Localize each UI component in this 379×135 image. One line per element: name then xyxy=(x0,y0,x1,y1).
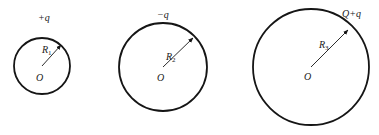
center-label-1: O xyxy=(36,72,43,83)
center-label-2: O xyxy=(157,72,164,83)
radius-arrow-3 xyxy=(311,30,348,67)
shells-diagram: +q R1 O −q R2 O Q+q R3 O xyxy=(0,0,379,135)
shell-1: +q R1 O xyxy=(14,12,70,94)
shell-3: Q+q R3 O xyxy=(253,8,369,125)
radius-label-2: R2 xyxy=(165,51,176,64)
radius-label-1: R1 xyxy=(41,44,52,57)
radius-label-3: R3 xyxy=(318,39,329,52)
charge-label-3: Q+q xyxy=(342,8,361,19)
charge-label-2: −q xyxy=(157,9,169,20)
center-label-3: O xyxy=(304,71,311,82)
charge-label-1: +q xyxy=(38,12,50,23)
shell-2: −q R2 O xyxy=(119,9,207,111)
